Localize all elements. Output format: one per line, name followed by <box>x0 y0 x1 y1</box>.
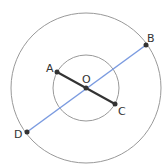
label-c: C <box>118 105 126 118</box>
label-d: D <box>14 128 22 141</box>
point-a <box>55 70 60 75</box>
label-b: B <box>147 32 155 45</box>
point-c <box>113 102 118 107</box>
point-o <box>84 86 89 91</box>
label-a: A <box>46 62 54 75</box>
concentric-circles-diagram: A O C B D <box>0 0 168 165</box>
point-d <box>25 130 30 135</box>
label-o: O <box>82 73 91 86</box>
